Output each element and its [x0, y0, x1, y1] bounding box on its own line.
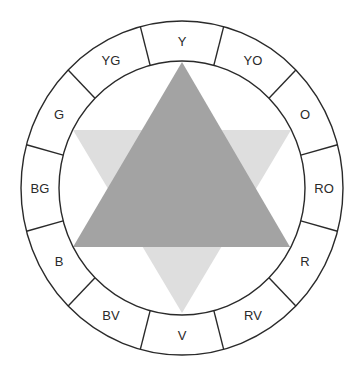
segment-divider [301, 145, 338, 155]
segment-divider [269, 70, 296, 98]
segment-divider [140, 311, 150, 350]
segment-divider [214, 27, 224, 66]
color-wheel-diagram: YYOORORRVVBVBBGGYG [0, 0, 360, 376]
segment-label-v: V [178, 328, 187, 343]
segment-label-o: O [300, 107, 310, 122]
segment-label-g: G [54, 107, 64, 122]
segment-label-b: B [55, 254, 64, 269]
segment-label-ro: RO [314, 181, 334, 196]
segment-divider [140, 27, 150, 66]
segment-divider [301, 221, 338, 231]
segment-label-rv: RV [244, 308, 262, 323]
segment-divider [26, 145, 63, 155]
triangles-group [73, 62, 291, 313]
segment-label-bg: BG [31, 181, 50, 196]
segment-divider [26, 221, 63, 231]
segment-label-r: R [300, 254, 309, 269]
segment-label-yg: YG [102, 53, 121, 68]
segment-label-bv: BV [102, 308, 120, 323]
segment-divider [68, 278, 95, 306]
segment-divider [214, 311, 224, 350]
segment-label-y: Y [178, 34, 187, 49]
segment-label-yo: YO [244, 53, 263, 68]
segment-divider [68, 70, 95, 98]
segment-divider [269, 278, 296, 306]
